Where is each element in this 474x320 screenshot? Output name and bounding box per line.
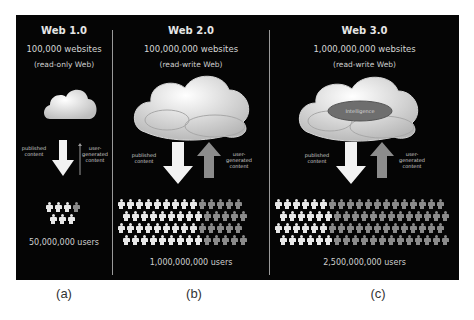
person-icon: [400, 199, 408, 209]
people-row: [279, 211, 449, 221]
person-icon: [315, 235, 323, 245]
web3-websites: 1,000,000,000 websites: [270, 44, 459, 54]
person-icon: [414, 235, 422, 245]
person-icon: [432, 211, 440, 221]
intelligence-label: Intelligence: [328, 108, 392, 114]
person-icon: [131, 211, 139, 221]
person-icon: [292, 223, 300, 233]
person-icon: [126, 199, 134, 209]
person-icon: [391, 199, 399, 209]
person-icon: [364, 199, 372, 209]
person-icon: [351, 235, 359, 245]
caption-a: (a): [44, 286, 84, 301]
person-icon: [176, 235, 184, 245]
person-icon: [131, 235, 139, 245]
person-icon: [315, 211, 323, 221]
person-icon: [297, 235, 305, 245]
person-icon: [288, 211, 296, 221]
person-icon: [239, 211, 247, 221]
published-arrow-icon: [336, 142, 366, 184]
person-icon: [306, 211, 314, 221]
person-icon: [409, 199, 417, 209]
person-icon: [387, 235, 395, 245]
person-icon: [427, 223, 435, 233]
person-icon: [171, 223, 179, 233]
person-icon: [162, 199, 170, 209]
person-icon: [391, 223, 399, 233]
person-icon: [373, 199, 381, 209]
person-icon: [292, 199, 300, 209]
person-icon: [405, 211, 413, 221]
person-icon: [405, 235, 413, 245]
person-icon: [212, 211, 220, 221]
person-icon: [319, 223, 327, 233]
person-icon: [378, 211, 386, 221]
people-row: [274, 223, 449, 233]
person-icon: [418, 223, 426, 233]
person-icon: [418, 199, 426, 209]
person-icon: [117, 199, 125, 209]
web1-column: Web 1.0 100,000 websites (read-only Web)…: [16, 15, 112, 280]
person-icon: [441, 211, 449, 221]
web1-user-label: user-generated content: [79, 145, 111, 163]
web3-users: 2,500,000,000 users: [270, 258, 459, 267]
person-icon: [310, 223, 318, 233]
person-icon: [140, 235, 148, 245]
person-icon: [360, 235, 368, 245]
person-icon: [306, 235, 314, 245]
person-icon: [194, 211, 202, 221]
person-icon: [194, 235, 202, 245]
person-icon: [369, 211, 377, 221]
person-icon: [432, 235, 440, 245]
people-row: [49, 214, 80, 224]
person-icon: [212, 235, 220, 245]
person-icon: [301, 199, 309, 209]
person-icon: [189, 223, 197, 233]
person-icon: [396, 235, 404, 245]
person-icon: [283, 199, 291, 209]
person-icon: [221, 211, 229, 221]
person-icon: [378, 235, 386, 245]
web1-people: [45, 202, 80, 226]
person-icon: [135, 199, 143, 209]
published-arrow-icon: [163, 142, 193, 184]
person-icon: [328, 223, 336, 233]
person-icon: [149, 235, 157, 245]
web2-user-label: user-generated content: [221, 151, 257, 169]
person-icon: [230, 235, 238, 245]
person-icon: [158, 211, 166, 221]
person-icon: [288, 235, 296, 245]
people-row: [117, 223, 247, 233]
person-icon: [369, 235, 377, 245]
person-icon: [225, 223, 233, 233]
person-icon: [333, 211, 341, 221]
person-icon: [364, 223, 372, 233]
person-icon: [337, 223, 345, 233]
person-icon: [221, 235, 229, 245]
person-icon: [185, 211, 193, 221]
person-icon: [346, 223, 354, 233]
person-icon: [409, 223, 417, 233]
person-icon: [414, 211, 422, 221]
person-icon: [360, 211, 368, 221]
person-icon: [346, 199, 354, 209]
person-icon: [234, 223, 242, 233]
person-icon: [234, 199, 242, 209]
person-icon: [382, 199, 390, 209]
person-icon: [171, 199, 179, 209]
person-icon: [279, 211, 287, 221]
web1-mode: (read-only Web): [16, 60, 112, 69]
person-icon: [167, 235, 175, 245]
person-icon: [167, 211, 175, 221]
diagram-panel: Web 1.0 100,000 websites (read-only Web)…: [16, 15, 459, 280]
web3-people: [274, 199, 449, 247]
web3-published-label: published content: [300, 152, 334, 164]
person-icon: [230, 211, 238, 221]
web2-published-label: published content: [127, 152, 161, 164]
person-icon: [144, 199, 152, 209]
person-icon: [203, 235, 211, 245]
person-icon: [423, 235, 431, 245]
person-icon: [203, 211, 211, 221]
person-icon: [135, 223, 143, 233]
person-icon: [180, 199, 188, 209]
